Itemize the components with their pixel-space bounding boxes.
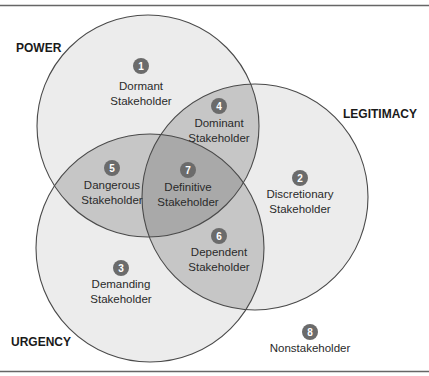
- svg-text:4: 4: [216, 101, 222, 112]
- svg-text:8: 8: [307, 327, 313, 338]
- svg-text:Stakeholder: Stakeholder: [157, 196, 219, 208]
- svg-text:Definitive: Definitive: [164, 181, 211, 193]
- svg-text:Stakeholder: Stakeholder: [90, 293, 152, 305]
- svg-text:Nonstakeholder: Nonstakeholder: [270, 342, 351, 354]
- svg-text:Demanding: Demanding: [92, 278, 151, 290]
- svg-text:7: 7: [185, 165, 191, 176]
- svg-text:Discretionary: Discretionary: [266, 188, 333, 200]
- svg-text:6: 6: [216, 231, 222, 242]
- svg-text:5: 5: [109, 163, 115, 174]
- svg-text:Stakeholder: Stakeholder: [81, 194, 143, 206]
- stakeholder-venn-diagram: POWER LEGITIMACY URGENCY 1 Dormant Stake…: [0, 0, 429, 376]
- svg-text:Stakeholder: Stakeholder: [188, 132, 250, 144]
- svg-text:Dominant: Dominant: [194, 117, 244, 129]
- svg-text:Stakeholder: Stakeholder: [110, 95, 172, 107]
- svg-text:Stakeholder: Stakeholder: [188, 261, 250, 273]
- svg-text:2: 2: [297, 173, 303, 184]
- svg-text:3: 3: [118, 263, 124, 274]
- svg-text:Dormant: Dormant: [119, 80, 164, 92]
- svg-text:Dependent: Dependent: [191, 246, 248, 258]
- svg-text:Dangerous: Dangerous: [84, 179, 141, 191]
- region-nonstakeholder: 8 Nonstakeholder: [270, 324, 351, 354]
- svg-text:1: 1: [138, 61, 144, 72]
- power-label: POWER: [16, 41, 62, 55]
- svg-text:Stakeholder: Stakeholder: [269, 203, 331, 215]
- urgency-label: URGENCY: [11, 335, 71, 349]
- legitimacy-label: LEGITIMACY: [343, 107, 417, 121]
